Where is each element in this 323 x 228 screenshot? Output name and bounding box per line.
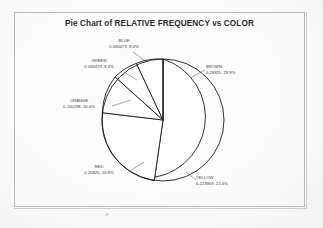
- pie-slices: [102, 59, 224, 181]
- pie-label-brown-value: 0.29825, 29.9%: [206, 70, 268, 76]
- page-footer-mark: F: [106, 212, 108, 217]
- pie-label-brown: BROWN 0.29825, 29.9%: [206, 64, 268, 76]
- pie-label-red: RED 0.20825, 20.8%: [70, 164, 128, 176]
- pie-label-red-value: 0.20825, 20.8%: [70, 170, 128, 176]
- pie-label-yellow-value: 0.223969, 22.4%: [196, 181, 258, 187]
- pie-label-yellow: YELLOW 0.223969, 22.4%: [196, 175, 258, 187]
- leader-line-blue: [133, 52, 146, 62]
- pie-label-blue-value: 0.084479, 8.4%: [96, 44, 152, 50]
- pie-label-orange: ORANGE 0.100198, 10.0%: [50, 98, 108, 110]
- pie-chart-plot: [0, 0, 323, 228]
- scanned-page: Pie Chart of RELATIVE FREQUENCY vs COLOR: [0, 0, 323, 228]
- pie-label-green: GREEN 0.084479, 8.4%: [71, 58, 127, 70]
- pie-label-orange-value: 0.100198, 10.0%: [50, 104, 108, 110]
- pie-label-green-value: 0.084479, 8.4%: [71, 64, 127, 70]
- pie-label-blue: BLUE 0.084479, 8.4%: [96, 38, 152, 50]
